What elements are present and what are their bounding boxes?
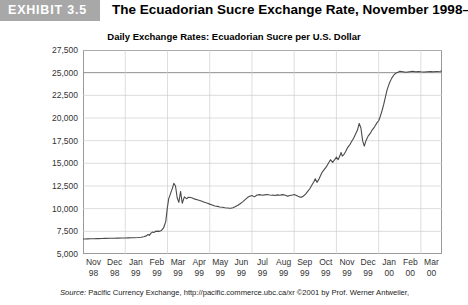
y-tick-label: 20,000 — [52, 113, 78, 123]
y-tick-label: 17,500 — [52, 136, 78, 146]
y-tick-label: 27,500 — [52, 45, 78, 55]
source-note: Source: Pacific Currency Exchange, http:… — [60, 288, 468, 297]
y-axis: 5,0007,50010,00012,50015,00017,50020,000… — [30, 50, 78, 254]
exhibit-title: The Ecuadorian Sucre Exchange Rate, Nove… — [112, 2, 468, 17]
y-tick-label: 25,000 — [52, 68, 78, 78]
source-text: Pacific Currency Exchange, http://pacifi… — [86, 288, 409, 297]
y-tick-label: 12,500 — [52, 181, 78, 191]
chart-plot-area — [83, 50, 442, 254]
data-series-line — [83, 71, 442, 239]
y-tick-label: 5,000 — [57, 249, 78, 259]
chart-title: Daily Exchange Rates: Ecuadorian Sucre p… — [0, 31, 468, 42]
source-prefix: Source: — [60, 288, 86, 297]
exhibit-header: EXHIBIT 3.5 The Ecuadorian Sucre Exchang… — [0, 0, 468, 22]
x-axis: Nov98Dec98Jan99Feb99Mar99Apr99May99Jun99… — [83, 257, 442, 283]
x-tick-label: Mar00 — [416, 257, 446, 279]
y-tick-label: 10,000 — [52, 204, 78, 214]
exhibit-badge: EXHIBIT 3.5 — [0, 0, 100, 21]
y-tick-label: 15,000 — [52, 158, 78, 168]
y-tick-label: 22,500 — [52, 90, 78, 100]
exhibit-badge-label: EXHIBIT 3.5 — [8, 3, 87, 17]
exchange-rate-line-chart — [83, 50, 442, 254]
y-tick-label: 7,500 — [57, 226, 78, 236]
